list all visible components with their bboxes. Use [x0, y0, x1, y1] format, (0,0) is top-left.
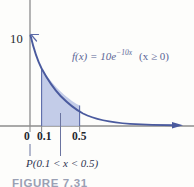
figure-caption: FIGURE 7.31: [12, 177, 88, 187]
x-axis-tick-label-0-5: 0.5: [72, 130, 86, 142]
x-axis-tick-label-0: 0: [24, 130, 30, 142]
formula-condition: (x ≥ 0): [139, 50, 169, 62]
probability-annotation: P(0.1 < x < 0.5): [26, 157, 98, 169]
curve-arrowhead: [172, 122, 183, 129]
density-function-formula: f(x) = 10e−10x(x ≥ 0): [72, 48, 169, 62]
formula-lhs: f(x) = 10e: [72, 50, 116, 62]
figure-container: 10 f(x) = 10e−10x(x ≥ 0) 0 0.1 0.5 P(0.1…: [0, 0, 194, 187]
x-axis-tick-label-0-1: 0.1: [37, 130, 51, 142]
y-axis-value-label: 10: [10, 32, 23, 47]
formula-exponent: −10x: [116, 48, 132, 57]
